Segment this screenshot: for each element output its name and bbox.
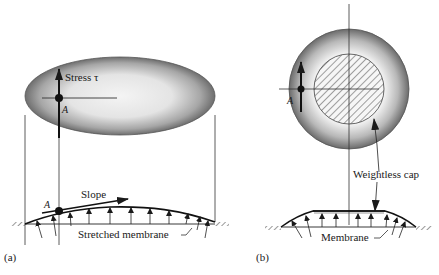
left-ground-hatch (11, 222, 25, 226)
membrane-leader-line (181, 228, 192, 235)
weightless-cap-label: Weightless cap (353, 168, 420, 180)
panel-b: A Weightless cap Membrane (b) (256, 4, 432, 264)
point-a-membrane-dot (55, 207, 63, 215)
membrane-leader-line-b (374, 230, 388, 238)
membrane-label-b: Membrane (321, 231, 369, 243)
slope-arrow-icon (42, 199, 128, 213)
panel-b-label: (b) (256, 251, 269, 264)
panel-a-label: (a) (4, 251, 17, 264)
diagram-canvas: Stress τ A Slope A Stretched membrane (0, 0, 439, 275)
cap-leader-down-arrow (375, 182, 377, 211)
point-a-dot-b (298, 86, 305, 93)
point-a-dot (55, 94, 63, 102)
left-ground-hatch-b (265, 226, 281, 230)
point-a-label-bottom: A (43, 199, 51, 210)
stretched-membrane-label: Stretched membrane (78, 228, 169, 240)
panel-a: Stress τ A Slope A Stretched membrane (4, 57, 229, 264)
cross-section-ellipse (25, 57, 215, 135)
membrane-analogy-figure: Stress τ A Slope A Stretched membrane (0, 0, 439, 275)
right-ground-hatch (215, 222, 229, 226)
slope-label: Slope (81, 188, 106, 200)
point-a-label-b: A (286, 95, 294, 106)
membrane-curve-b (281, 211, 416, 227)
point-a-label-top: A (61, 104, 69, 115)
stress-label: Stress τ (65, 71, 99, 83)
right-ground-hatch-b (416, 226, 432, 230)
